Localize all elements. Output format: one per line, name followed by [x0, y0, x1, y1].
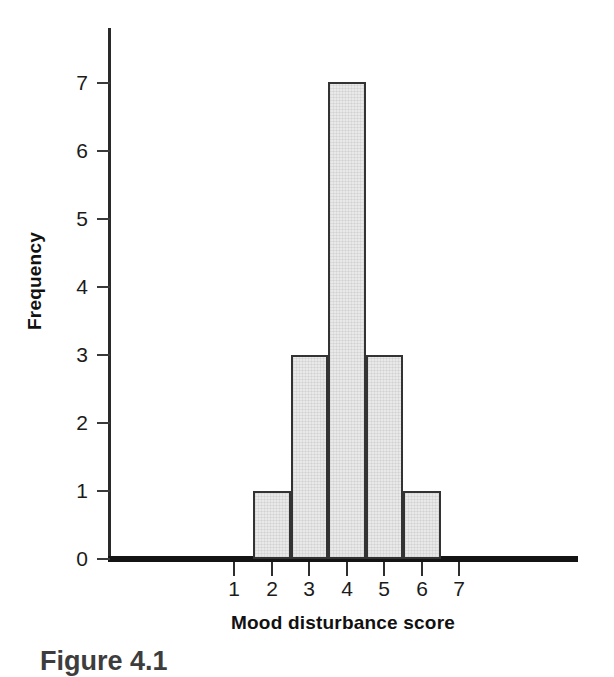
y-axis-tick: [97, 558, 110, 560]
y-axis-tick-label: 1: [62, 480, 88, 501]
y-axis-line: [108, 28, 111, 561]
x-axis-tick-label: 3: [294, 578, 324, 599]
y-axis-tick-label: 6: [62, 140, 88, 161]
bar-score-3: [291, 355, 328, 559]
x-axis-title: Mood disturbance score: [108, 612, 578, 634]
y-axis-tick-label: 2: [62, 412, 88, 433]
x-axis-tick-label: 5: [369, 578, 399, 599]
y-axis-tick-label: 4: [62, 276, 88, 297]
x-axis-tick: [233, 562, 235, 576]
y-axis-tick-label: 7: [62, 72, 88, 93]
y-axis-tick-label: 3: [62, 344, 88, 365]
y-axis-tick: [97, 286, 110, 288]
y-axis-title: Frequency: [24, 201, 46, 361]
bar-score-4: [328, 82, 366, 559]
x-axis-tick: [271, 562, 273, 576]
x-axis-tick-label: 1: [219, 578, 249, 599]
y-axis-tick-label: 5: [62, 208, 88, 229]
y-axis-tick: [97, 354, 110, 356]
x-axis-tick: [383, 562, 385, 576]
x-axis-tick: [421, 562, 423, 576]
figure-caption: Figure 4.1: [40, 646, 168, 677]
x-axis-tick-label: 7: [444, 578, 474, 599]
x-axis-tick-label: 4: [332, 578, 362, 599]
x-axis-tick: [458, 562, 460, 576]
bar-score-2: [253, 491, 291, 559]
y-axis-tick: [97, 422, 110, 424]
y-axis-tick: [97, 150, 110, 152]
y-axis-tick: [97, 218, 110, 220]
y-axis-tick-label: 0: [62, 548, 88, 569]
bar-score-5: [366, 355, 403, 559]
x-axis-tick: [346, 562, 348, 576]
x-axis-tick: [308, 562, 310, 576]
y-axis-tick: [97, 82, 110, 84]
y-axis-tick: [97, 490, 110, 492]
x-axis-tick-label: 6: [407, 578, 437, 599]
bar-score-6: [403, 491, 441, 559]
x-axis-tick-label: 2: [257, 578, 287, 599]
